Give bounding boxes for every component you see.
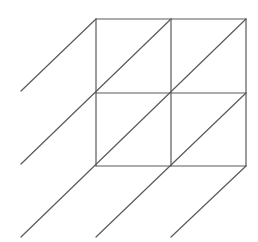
diagonal-line xyxy=(171,166,246,237)
diagonal-lines xyxy=(21,19,246,237)
diagonal-line xyxy=(21,19,96,91)
diagonal-line xyxy=(21,19,246,237)
lattice-grid-diagram xyxy=(0,0,258,242)
